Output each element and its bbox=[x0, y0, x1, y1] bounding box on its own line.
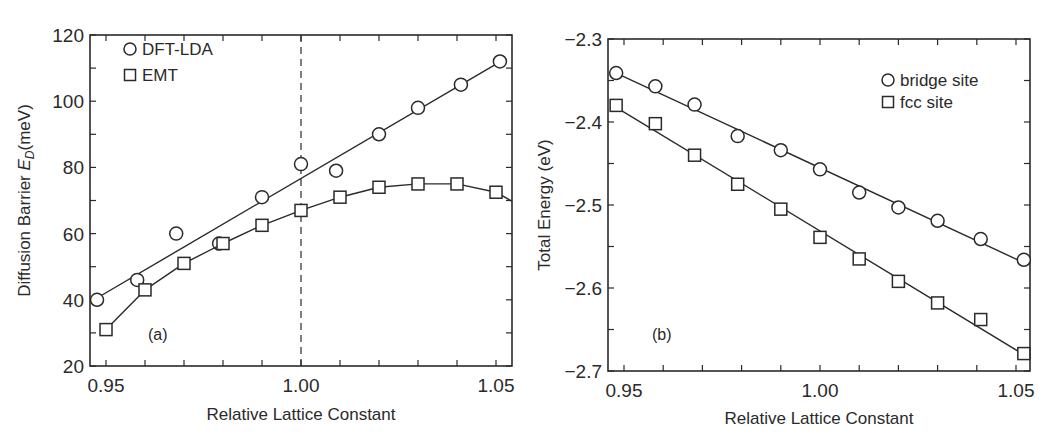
legend-label: fcc site bbox=[900, 93, 953, 112]
x-tick-label: 1.00 bbox=[283, 375, 320, 396]
data-point-square bbox=[100, 324, 112, 336]
y-tick-label: 40 bbox=[63, 290, 84, 311]
data-point-square bbox=[649, 118, 661, 130]
legend-circle-icon bbox=[124, 43, 136, 55]
data-point-circle bbox=[853, 186, 866, 199]
y-axis-title: Total Energy (eV) bbox=[535, 139, 554, 270]
y-tick-label: 80 bbox=[63, 157, 84, 178]
data-point-circle bbox=[688, 98, 701, 111]
y-tick-label: 60 bbox=[63, 224, 84, 245]
data-point-square bbox=[412, 178, 424, 190]
data-point-circle bbox=[454, 78, 467, 91]
data-point-circle bbox=[1017, 253, 1030, 266]
fit-line bbox=[97, 62, 500, 298]
data-point-square bbox=[853, 253, 865, 265]
data-point-circle bbox=[774, 144, 787, 157]
panel-label: (a) bbox=[148, 326, 168, 343]
series-fcc-site bbox=[610, 99, 1030, 359]
y-tick-label: −2.6 bbox=[564, 278, 602, 299]
legend-square-icon bbox=[125, 70, 136, 81]
series-emt bbox=[100, 178, 519, 336]
y-tick-label: 120 bbox=[52, 25, 84, 46]
data-point-circle bbox=[731, 130, 744, 143]
x-axis-title: Relative Lattice Constant bbox=[725, 409, 914, 428]
data-point-circle bbox=[91, 293, 104, 306]
data-point-square bbox=[732, 178, 744, 190]
y-tick-label: −2.3 bbox=[564, 29, 602, 50]
data-point-square bbox=[139, 284, 151, 296]
x-tick-label: 1.05 bbox=[998, 380, 1035, 401]
x-tick-label: 1.05 bbox=[478, 375, 515, 396]
x-tick-label: 0.95 bbox=[88, 375, 125, 396]
series-dft-lda bbox=[91, 55, 507, 306]
data-point-square bbox=[295, 204, 307, 216]
chart-panel-b: 0.951.001.05−2.3−2.4−2.5−2.6−2.7Relative… bbox=[535, 29, 1034, 428]
y-axis-title: Diffusion Barrier ED(meV) bbox=[15, 104, 37, 297]
data-point-square bbox=[490, 186, 502, 198]
data-point-square bbox=[256, 219, 268, 231]
data-point-circle bbox=[170, 227, 183, 240]
data-point-square bbox=[892, 275, 904, 287]
data-point-circle bbox=[892, 201, 905, 214]
figure: 0.951.001.0520406080100120Relative Latti… bbox=[0, 0, 1050, 445]
data-point-circle bbox=[610, 67, 623, 80]
data-point-circle bbox=[649, 80, 662, 93]
data-point-square bbox=[217, 238, 229, 250]
data-point-square bbox=[932, 297, 944, 309]
legend-label: bridge site bbox=[900, 71, 978, 90]
data-point-circle bbox=[295, 158, 308, 171]
data-point-square bbox=[178, 257, 190, 269]
data-point-square bbox=[373, 181, 385, 193]
data-point-square bbox=[334, 191, 346, 203]
data-point-square bbox=[689, 149, 701, 161]
data-point-circle bbox=[256, 191, 269, 204]
x-tick-label: 0.95 bbox=[606, 380, 643, 401]
data-point-square bbox=[775, 203, 787, 215]
y-tick-label: 100 bbox=[52, 91, 84, 112]
y-tick-label: −2.7 bbox=[564, 361, 602, 382]
y-tick-label: −2.5 bbox=[564, 195, 602, 216]
data-point-circle bbox=[974, 233, 987, 246]
chart-panel-a: 0.951.001.0520406080100120Relative Latti… bbox=[15, 25, 519, 424]
legend-square-icon bbox=[883, 97, 894, 108]
legend-label: EMT bbox=[142, 66, 178, 85]
panel-label: (b) bbox=[652, 326, 672, 343]
legend-circle-icon bbox=[882, 74, 894, 86]
data-point-square bbox=[1018, 348, 1030, 360]
data-point-square bbox=[814, 231, 826, 243]
data-point-circle bbox=[814, 163, 827, 176]
data-point-circle bbox=[412, 101, 425, 114]
data-point-square bbox=[610, 99, 622, 111]
data-point-square bbox=[975, 314, 987, 326]
data-point-circle bbox=[373, 128, 386, 141]
x-tick-label: 1.00 bbox=[802, 380, 839, 401]
data-point-square bbox=[451, 178, 463, 190]
data-point-circle bbox=[493, 55, 506, 68]
legend-label: DFT-LDA bbox=[142, 40, 214, 59]
y-tick-label: −2.4 bbox=[564, 112, 602, 133]
data-point-circle bbox=[931, 214, 944, 227]
data-point-circle bbox=[330, 164, 343, 177]
x-axis-title: Relative Lattice Constant bbox=[207, 405, 396, 424]
y-tick-label: 20 bbox=[63, 356, 84, 377]
